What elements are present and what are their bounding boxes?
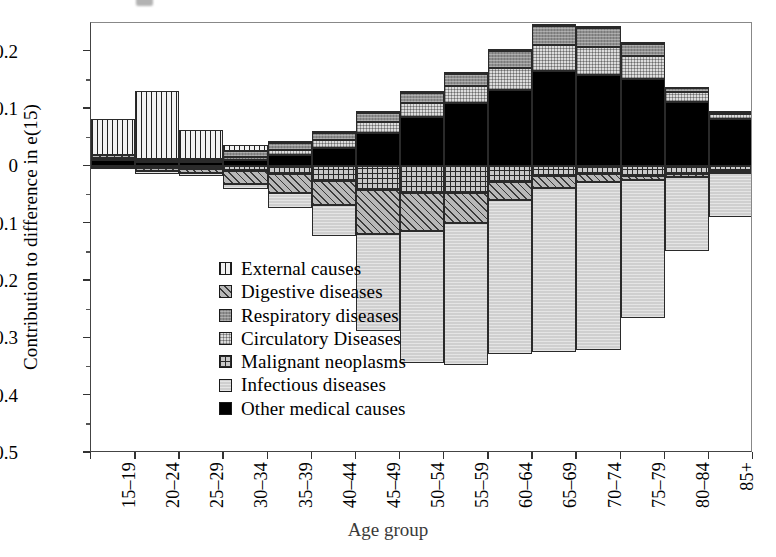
bar-segment (400, 117, 444, 166)
x-tick-label: 40–44 (341, 462, 359, 557)
legend-label: External causes (241, 257, 361, 280)
x-tick-mark (664, 452, 665, 459)
bar-segment (444, 166, 488, 192)
bar-segment (400, 91, 444, 93)
bar-segment (268, 193, 312, 208)
bar-segment (532, 26, 576, 45)
bar-segment (356, 190, 400, 234)
bar-segment (356, 133, 400, 166)
x-tick-label: 55–59 (473, 462, 491, 557)
x-tick-mark (222, 452, 223, 459)
bar-segment (223, 184, 267, 190)
y-tick-mark (83, 394, 90, 396)
legend-label: Respiratory diseases (241, 304, 399, 327)
x-tick-label: 35–39 (297, 462, 315, 557)
legend-item: Respiratory diseases (219, 304, 406, 327)
bar-segment (400, 231, 444, 363)
bar-segment (532, 188, 576, 352)
bar-segment (400, 166, 444, 192)
bar-segment (444, 103, 488, 166)
bar-segment (488, 51, 532, 68)
bar-segment (444, 86, 488, 103)
bar-segment (312, 133, 356, 140)
bar-segment (532, 71, 576, 167)
bar-segment (223, 157, 267, 160)
bar-segment (444, 72, 488, 74)
legend-swatch-icon (219, 309, 232, 322)
bar-segment (621, 166, 665, 175)
bar-segment (91, 158, 135, 160)
bar-segment (179, 161, 223, 163)
bar-segment (223, 171, 267, 184)
x-tick-mark (134, 452, 135, 459)
legend-label: Malignant neoplasms (241, 350, 406, 373)
bar-segment (135, 171, 179, 173)
bar-segment (135, 159, 179, 161)
bar-segment (268, 150, 312, 156)
plot-area: External causesDigestive diseasesRespira… (90, 22, 752, 452)
bar-segment (576, 75, 620, 167)
bar-segment (268, 166, 312, 174)
x-tick-mark (531, 452, 532, 459)
bar-segment (532, 176, 576, 189)
y-tick-label: 0 (0, 156, 18, 175)
legend-swatch-icon (219, 379, 232, 392)
x-tick-mark (443, 452, 444, 459)
bar-segment (709, 114, 752, 119)
x-tick-label: 15–19 (120, 462, 138, 557)
bar-segment (576, 26, 620, 28)
legend-item: External causes (219, 257, 406, 280)
y-tick-mark (83, 165, 90, 167)
bar-segment (709, 111, 752, 113)
scan-artifact (136, 0, 153, 6)
x-tick-mark (487, 452, 488, 459)
y-tick-mark (83, 107, 90, 109)
bar-segment (91, 155, 135, 157)
legend-swatch-icon (219, 355, 232, 368)
bar-segment (444, 74, 488, 86)
legend-item: Malignant neoplasms (219, 350, 406, 373)
bar-segment (179, 159, 223, 161)
y-axis-title: Contribution to difference in e(15) (20, 22, 46, 452)
y-tick-label: –0.2 (0, 271, 18, 290)
legend-swatch-icon (219, 262, 232, 275)
bar-segment (576, 174, 620, 182)
bar-segment (576, 166, 620, 173)
x-tick-label: 50–54 (429, 462, 447, 557)
legend-label: Digestive diseases (241, 280, 383, 303)
x-tick-label: 80–84 (694, 462, 712, 557)
bar-segment (91, 167, 135, 169)
x-tick-mark (267, 452, 268, 459)
bar-segment (709, 119, 752, 166)
bar-segment (400, 93, 444, 103)
bar-segment (532, 45, 576, 70)
bar-segment (488, 90, 532, 167)
x-tick-mark (355, 452, 356, 459)
x-tick-mark (311, 452, 312, 459)
y-tick-label: 0.1 (0, 99, 18, 118)
y-tick-mark (83, 50, 90, 52)
x-tick-mark (90, 452, 91, 459)
bar-segment (400, 193, 444, 231)
bar-segment (709, 173, 752, 217)
y-tick-label: 0.2 (0, 41, 18, 60)
bar-segment (223, 151, 267, 157)
x-tick-mark (708, 452, 709, 459)
bar-segment (91, 119, 135, 155)
bar-segment (532, 166, 576, 175)
x-tick-label: 70–74 (606, 462, 624, 557)
x-tick-label: 25–29 (208, 462, 226, 557)
bar-segment (488, 182, 532, 199)
y-tick-label: –0.4 (0, 385, 18, 404)
bar-segment (356, 111, 400, 113)
bar-segment (665, 166, 709, 173)
x-tick-mark (575, 452, 576, 459)
legend-label: Circulatory Diseases (241, 327, 401, 350)
bar-segment (268, 141, 312, 144)
y-tick-label: –0.5 (0, 443, 18, 462)
bar-segment (621, 79, 665, 166)
legend: External causesDigestive diseasesRespira… (219, 257, 406, 420)
legend-label: Other medical causes (241, 397, 405, 420)
bar-segment (665, 88, 709, 91)
bar-segment (665, 92, 709, 102)
